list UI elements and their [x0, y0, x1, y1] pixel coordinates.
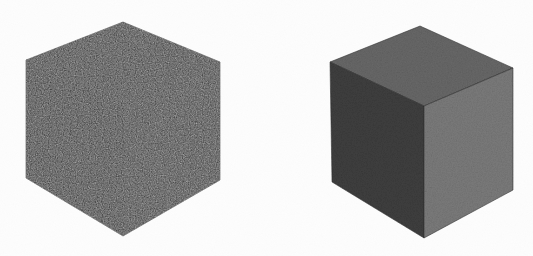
paper-grain-overlay — [0, 0, 533, 256]
cube-figure-canvas — [0, 0, 533, 256]
figure-root — [0, 0, 533, 256]
